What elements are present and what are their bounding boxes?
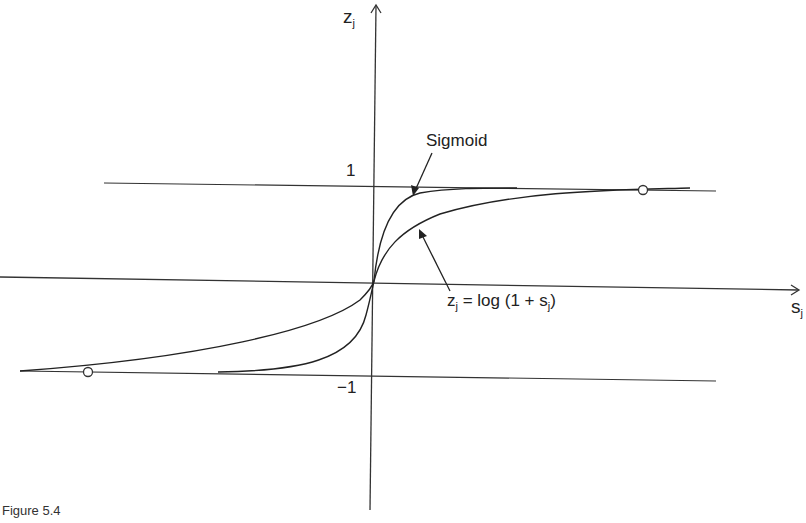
tick-label-one: 1: [346, 161, 355, 181]
y-axis-label: zj: [343, 6, 355, 28]
sigmoid-curve: [218, 188, 517, 372]
sigmoid-annotation: Sigmoid: [426, 131, 487, 151]
diagram-canvas: [0, 0, 806, 523]
lower-bound-line: [20, 371, 716, 381]
log-annotation: zj = log (1 + sj): [447, 291, 556, 311]
y-axis: [370, 6, 376, 510]
lower-intersection-marker: [84, 368, 93, 377]
x-axis: [0, 277, 798, 290]
upper-intersection-marker: [639, 186, 648, 195]
log-pointer: [421, 233, 450, 291]
log-arrowhead-icon: [419, 229, 427, 239]
figure-caption: Figure 5.4: [2, 503, 61, 518]
tick-label-minus-one: −1: [337, 378, 356, 398]
x-axis-label: sj: [791, 296, 803, 318]
